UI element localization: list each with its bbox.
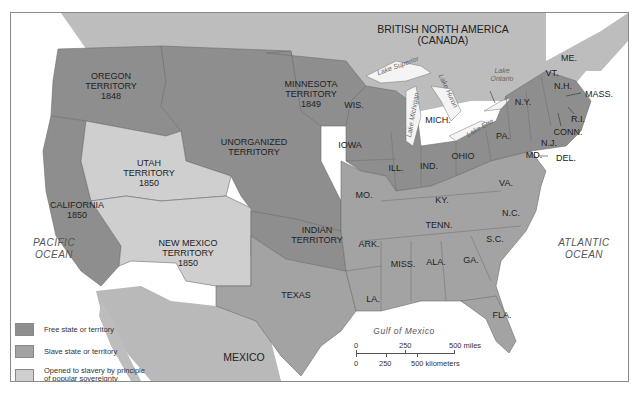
label-ind: IND. xyxy=(420,161,438,171)
label-british-north-america: BRITISH NORTH AMERICA (CANADA) xyxy=(377,24,509,46)
label-pa: PA. xyxy=(496,131,510,141)
label-mass: MASS. xyxy=(585,89,613,99)
scale-km-0: 0 xyxy=(354,359,358,368)
label-iowa: IOWA xyxy=(338,140,362,150)
scale-bar: 0 250 500 miles 0 250 500 kilometers xyxy=(354,341,514,377)
label-wis: WIS. xyxy=(344,100,364,110)
legend-item-free: Free state or territory xyxy=(15,323,145,336)
label-gulf-of-mexico: Gulf of Mexico xyxy=(373,325,434,337)
label-conn: CONN. xyxy=(554,127,583,137)
label-sc: S.C. xyxy=(486,234,504,244)
map-legend: Free state or territory Slave state or t… xyxy=(15,323,145,382)
label-unorganized-territory: UNORGANIZEDTERRITORY xyxy=(221,137,288,157)
label-ark: ARK. xyxy=(358,239,379,249)
label-lake-ontario: LakeOntario xyxy=(491,67,514,83)
legend-swatch-free xyxy=(15,323,34,336)
label-la: LA. xyxy=(366,294,380,304)
label-ky: KY. xyxy=(435,195,448,205)
legend-swatch-popular-sovereignty xyxy=(15,369,34,382)
label-md: MD. xyxy=(526,150,543,160)
label-ohio: OHIO xyxy=(451,151,474,161)
map-frame: BRITISH NORTH AMERICA (CANADA) OREGONTER… xyxy=(10,12,629,382)
scale-miles-250: 250 xyxy=(399,341,412,350)
label-del: DEL. xyxy=(556,153,576,163)
label-oregon-territory: OREGONTERRITORY1848 xyxy=(85,71,137,101)
legend-swatch-slave xyxy=(15,345,34,358)
label-utah-territory: UTAHTERRITORY1850 xyxy=(123,158,175,188)
scale-km-250: 250 xyxy=(379,359,392,368)
label-atlantic-ocean: ATLANTICOCEAN xyxy=(558,237,610,261)
legend-label-free: Free state or territory xyxy=(44,326,114,334)
label-fla: FLA. xyxy=(492,310,511,320)
scale-miles-500: 500 miles xyxy=(449,341,481,350)
label-mich: MICH. xyxy=(425,115,451,125)
label-ala: ALA. xyxy=(426,257,446,267)
label-vt: VT. xyxy=(545,68,558,78)
label-me: ME. xyxy=(561,53,577,63)
legend-label-slave: Slave state or territory xyxy=(44,348,117,356)
label-va: VA. xyxy=(499,178,513,188)
label-mo: MO. xyxy=(356,190,373,200)
legend-item-popular-sovereignty: Opened to slavery by principleof popular… xyxy=(15,367,145,382)
label-texas: TEXAS xyxy=(281,290,311,300)
legend-label-popular-sovereignty: Opened to slavery by principleof popular… xyxy=(44,367,145,382)
label-new-mexico-territory: NEW MEXICOTERRITORY1850 xyxy=(158,238,217,268)
legend-item-slave: Slave state or territory xyxy=(15,345,145,358)
label-nh: N.H. xyxy=(554,81,572,91)
label-ny: N.Y. xyxy=(515,97,531,107)
label-ill: ILL. xyxy=(388,163,403,173)
label-ri: R.I. xyxy=(571,114,585,124)
label-nc: N.C. xyxy=(502,208,520,218)
label-indian-territory: INDIANTERRITORY xyxy=(291,225,343,245)
scale-miles-0: 0 xyxy=(354,341,358,350)
label-pacific-ocean: PACIFICOCEAN xyxy=(33,237,75,261)
label-nj: N.J. xyxy=(541,138,557,148)
label-tenn: TENN. xyxy=(426,220,453,230)
label-ga: GA. xyxy=(463,255,479,265)
label-miss: MISS. xyxy=(391,259,416,269)
label-california: CALIFORNIA1850 xyxy=(50,200,104,220)
scale-km-500: 500 kilometers xyxy=(411,359,460,368)
label-mexico: MEXICO xyxy=(223,352,264,363)
label-minnesota-territory: MINNESOTATERRITORY1849 xyxy=(285,79,338,109)
